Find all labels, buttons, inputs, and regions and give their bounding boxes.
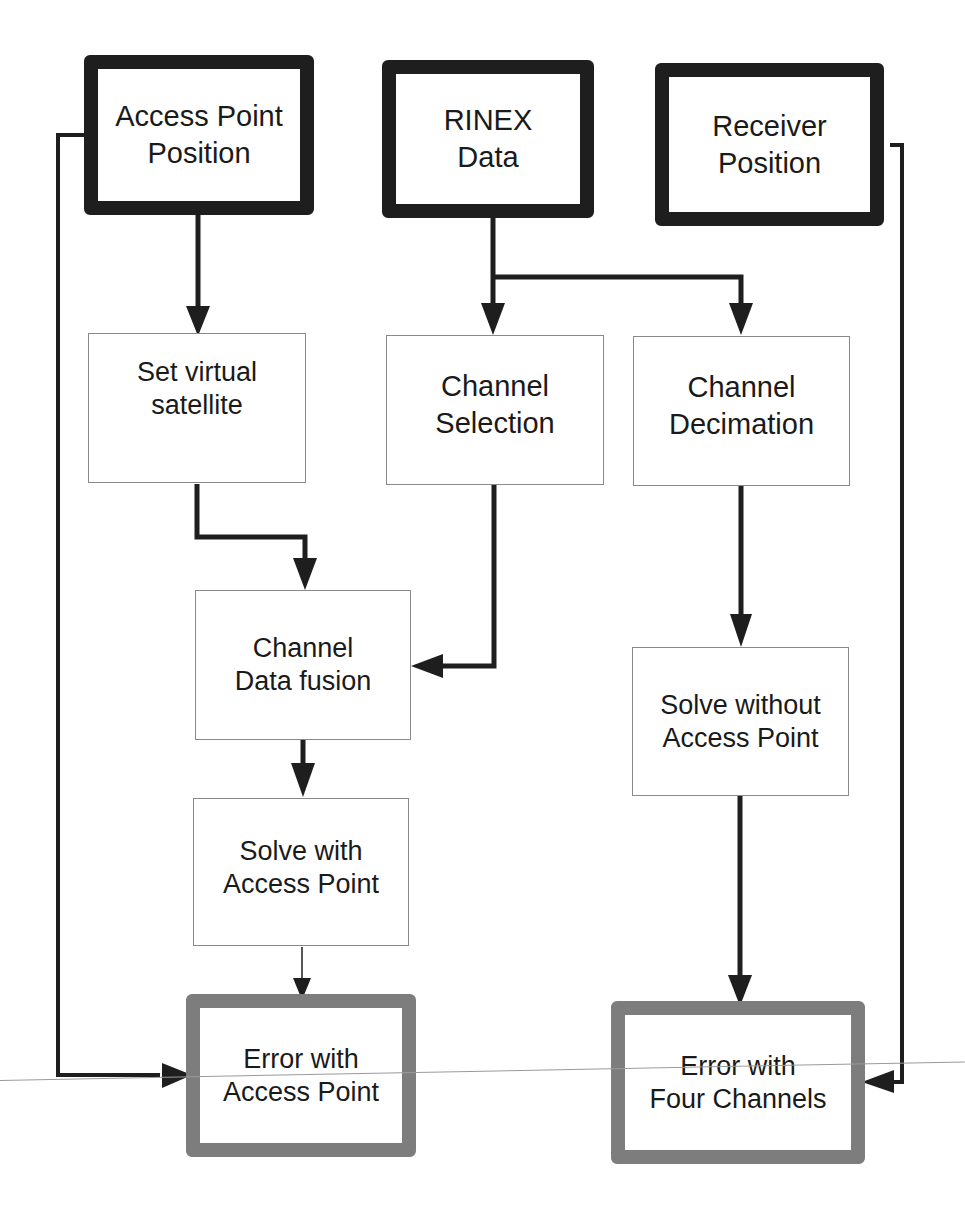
edge-receiver-to-error-4ch: [890, 145, 902, 1082]
node-label: Solve with Access Point: [223, 835, 379, 901]
node-set-virtual-satellite: Set virtual satellite: [88, 333, 306, 483]
node-rinex-data: RINEX Data: [382, 60, 594, 218]
node-label: Channel Selection: [435, 368, 554, 442]
edge-selection-to-fusion: [440, 484, 494, 666]
edge-rinex-to-decimation: [493, 277, 741, 320]
node-channel-selection: Channel Selection: [386, 335, 604, 485]
node-label: RINEX Data: [444, 102, 533, 176]
node-channel-data-fusion: Channel Data fusion: [195, 590, 411, 740]
node-label: Set virtual satellite: [137, 356, 257, 422]
edge-virtual-to-fusion: [197, 484, 305, 575]
node-label: Error with Four Channels: [649, 1050, 826, 1116]
node-channel-decimation: Channel Decimation: [633, 336, 850, 486]
edge-ap-to-error-ap: [58, 135, 160, 1075]
node-solve-without-access-point: Solve without Access Point: [632, 647, 849, 796]
node-label: Channel Decimation: [669, 369, 814, 443]
node-label: Channel Data fusion: [235, 632, 372, 698]
node-label: Receiver Position: [712, 108, 826, 182]
node-label: Solve without Access Point: [660, 689, 821, 755]
node-receiver-position: Receiver Position: [655, 63, 884, 226]
node-error-with-four-channels: Error with Four Channels: [611, 1001, 865, 1164]
node-label: Access Point Position: [115, 98, 283, 172]
node-solve-with-access-point: Solve with Access Point: [193, 798, 409, 946]
node-access-point-position: Access Point Position: [84, 55, 314, 215]
